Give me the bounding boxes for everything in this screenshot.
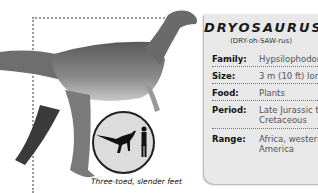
fact-value-line2: Cretaceous (259, 115, 318, 125)
scale-comparison-icon (94, 113, 153, 172)
fact-value: Plants (259, 88, 318, 98)
fact-value: 3 m (10 ft) long (259, 71, 318, 81)
fact-label: Food: (212, 88, 239, 98)
dino-neck (145, 11, 197, 65)
fact-label: Period: (212, 105, 246, 115)
fact-label: Family: (212, 54, 247, 64)
fact-value: Hypsilophodonti (259, 54, 318, 64)
divider (212, 100, 318, 101)
pronunciation: (DRY-oh-SAW-rus) (204, 37, 318, 45)
fact-value-line1: Africa, western N (259, 134, 318, 144)
divider (212, 83, 318, 84)
fact-label: Size: (212, 71, 235, 81)
fact-label: Range: (212, 134, 246, 144)
fact-card: DRYOSAURUS (DRY-oh-SAW-rus) Family: Hyps… (204, 14, 318, 184)
divider (212, 128, 318, 129)
scale-comparison-circle (92, 111, 155, 174)
dino-back-leg (15, 105, 60, 165)
dino-leg (65, 90, 95, 177)
divider (212, 66, 318, 67)
fact-value-line1: Late Jurassic to E (259, 105, 318, 115)
card-title: DRYOSAURUS (204, 20, 318, 35)
fact-value-line2: America (259, 144, 318, 154)
caption: Three-toed, slender feet (91, 177, 182, 186)
